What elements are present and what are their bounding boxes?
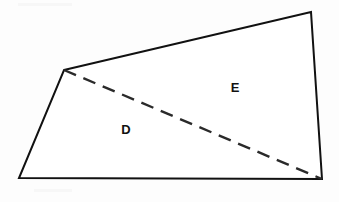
region-label-d: D	[121, 122, 130, 137]
quadrilateral-diagram: D E	[0, 0, 339, 202]
geometry-figure: D E	[0, 0, 339, 202]
region-label-e: E	[231, 80, 240, 95]
quadrilateral-fill	[19, 12, 322, 179]
